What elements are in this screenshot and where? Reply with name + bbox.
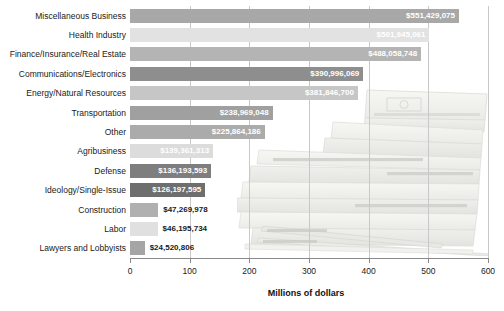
x-tick-label: 300	[302, 264, 316, 278]
category-label: Health Industry	[69, 28, 126, 42]
tickmark	[130, 258, 131, 263]
tickmark	[309, 258, 310, 263]
tickmark	[190, 258, 191, 263]
x-axis-title-text: Millions of dollars	[268, 288, 345, 298]
bar-value-label: $126,197,595	[152, 183, 201, 197]
category-label: Construction	[78, 203, 126, 217]
category-label: Energy/Natural Resources	[26, 86, 126, 100]
category-label: Lawyers and Lobbyists	[40, 241, 126, 255]
bar-value-label: $551,429,075	[406, 9, 455, 23]
category-label: Miscellaneous Business	[35, 9, 126, 23]
tickmark	[249, 258, 250, 263]
category-label: Finance/Insurance/Real Estate	[10, 47, 126, 61]
x-tick-label: 600	[481, 264, 495, 278]
x-tick-label: 400	[362, 264, 376, 278]
x-tick-label: 200	[242, 264, 256, 278]
tickmark	[369, 258, 370, 263]
bar	[130, 203, 158, 217]
category-label: Ideology/Single-Issue	[45, 183, 126, 197]
bar-value-label: $225,864,186	[212, 125, 261, 139]
category-label: Defense	[94, 164, 126, 178]
x-tick-label: 500	[421, 264, 435, 278]
tickmark	[428, 258, 429, 263]
x-tick-label: 0	[128, 264, 133, 278]
bar-value-label: $24,520,806	[150, 241, 195, 255]
bar-value-label: $136,193,593	[158, 164, 207, 178]
x-axis-tick-labels: 0100200300400500600	[0, 264, 504, 278]
bar-value-label: $381,846,700	[305, 86, 354, 100]
bar-value-label: $238,969,048	[220, 106, 269, 120]
category-label: Agribusiness	[77, 144, 126, 158]
bar-value-label: $46,195,734	[163, 222, 208, 236]
category-label: Transportation	[72, 106, 127, 120]
bar	[130, 241, 145, 255]
x-tick-label: 100	[183, 264, 197, 278]
bar-value-label: $390,996,069	[310, 67, 359, 81]
bar-chart: Miscellaneous BusinessHealth IndustryFin…	[0, 0, 504, 311]
x-axis-title: Millions of dollars	[0, 288, 504, 298]
tickmark	[488, 258, 489, 263]
category-label: Labor	[104, 222, 126, 236]
bar-value-label: $488,058,748	[368, 47, 417, 61]
gridline	[488, 6, 489, 258]
bars-layer: $551,429,075$501,945,061$488,058,748$390…	[130, 6, 488, 258]
category-label: Communications/Electronics	[19, 67, 126, 81]
bar-value-label: $501,945,061	[377, 28, 426, 42]
category-axis-labels: Miscellaneous BusinessHealth IndustryFin…	[0, 6, 126, 258]
bar	[130, 222, 158, 236]
category-label: Other	[105, 125, 126, 139]
bar-value-label: $139,361,313	[160, 144, 209, 158]
bar-value-label: $47,269,978	[163, 203, 208, 217]
